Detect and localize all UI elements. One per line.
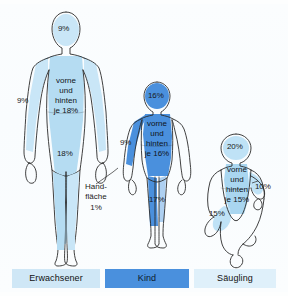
legend-item-infant[interactable]: Säugling [194,269,276,288]
adult-torso-line-2: und [45,86,87,96]
child-torso-line-3: hinten [138,139,176,149]
adult-head-percent: 9% [58,25,69,34]
infant-torso-line-1: vorne [218,165,256,175]
adult-hand-line-3: 1% [74,203,118,213]
adult-hand-line-2: fläche [74,192,118,202]
infant-torso-line-2: und [218,175,256,185]
adult-hand-label: Hand- fläche 1% [74,182,118,213]
adult-torso-line-4: je 18% [45,106,87,116]
child-torso-label: vorne und hinten je 16% [138,119,176,159]
child-arm-percent: 9% [120,139,131,148]
infant-leg-percent: 15% [209,210,225,219]
child-head-percent: 16% [148,92,164,101]
legend-item-adult[interactable]: Erwachsener [12,269,100,288]
adult-torso-line-3: hinten [45,96,87,106]
child-torso-line-2: und [138,129,176,139]
adult-torso-label: vorne und hinten je 18% [45,76,87,116]
infant-torso-line-4: je 15% [218,195,256,205]
adult-torso-line-1: vorne [45,76,87,86]
infant-torso-line-3: hinten [218,185,256,195]
adult-arm-percent: 9% [17,97,28,106]
adult-leg-percent: 18% [57,150,73,159]
legend-item-child[interactable]: Kind [105,269,189,288]
legend: Erwachsener Kind Säugling [0,269,288,288]
infant-head-percent: 20% [227,143,243,152]
infant-arm-percent: 10% [255,183,271,192]
child-figure [123,82,191,248]
child-torso-line-4: je 16% [138,149,176,159]
diagram-canvas: .outline{ fill:none; stroke:#2b2b2b; str… [0,0,288,296]
adult-figure [24,12,108,266]
infant-torso-label: vorne und hinten je 15% [218,165,256,205]
adult-hand-line-1: Hand- [74,182,118,192]
child-leg-percent: 17% [149,196,165,205]
child-torso-line-1: vorne [138,119,176,129]
